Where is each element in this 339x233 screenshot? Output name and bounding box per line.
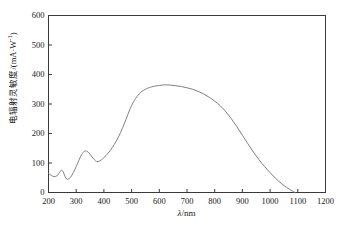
axis-ticks [49,16,326,193]
data-curve [49,85,296,193]
chart-figure: 电辐射灵敏度/(mA·W-1) λ/nm 0100200300400500600… [0,0,339,233]
data-curve-group [49,85,296,193]
plot-area [0,0,339,233]
plot-frame [49,16,326,193]
axes-frame [49,16,326,193]
